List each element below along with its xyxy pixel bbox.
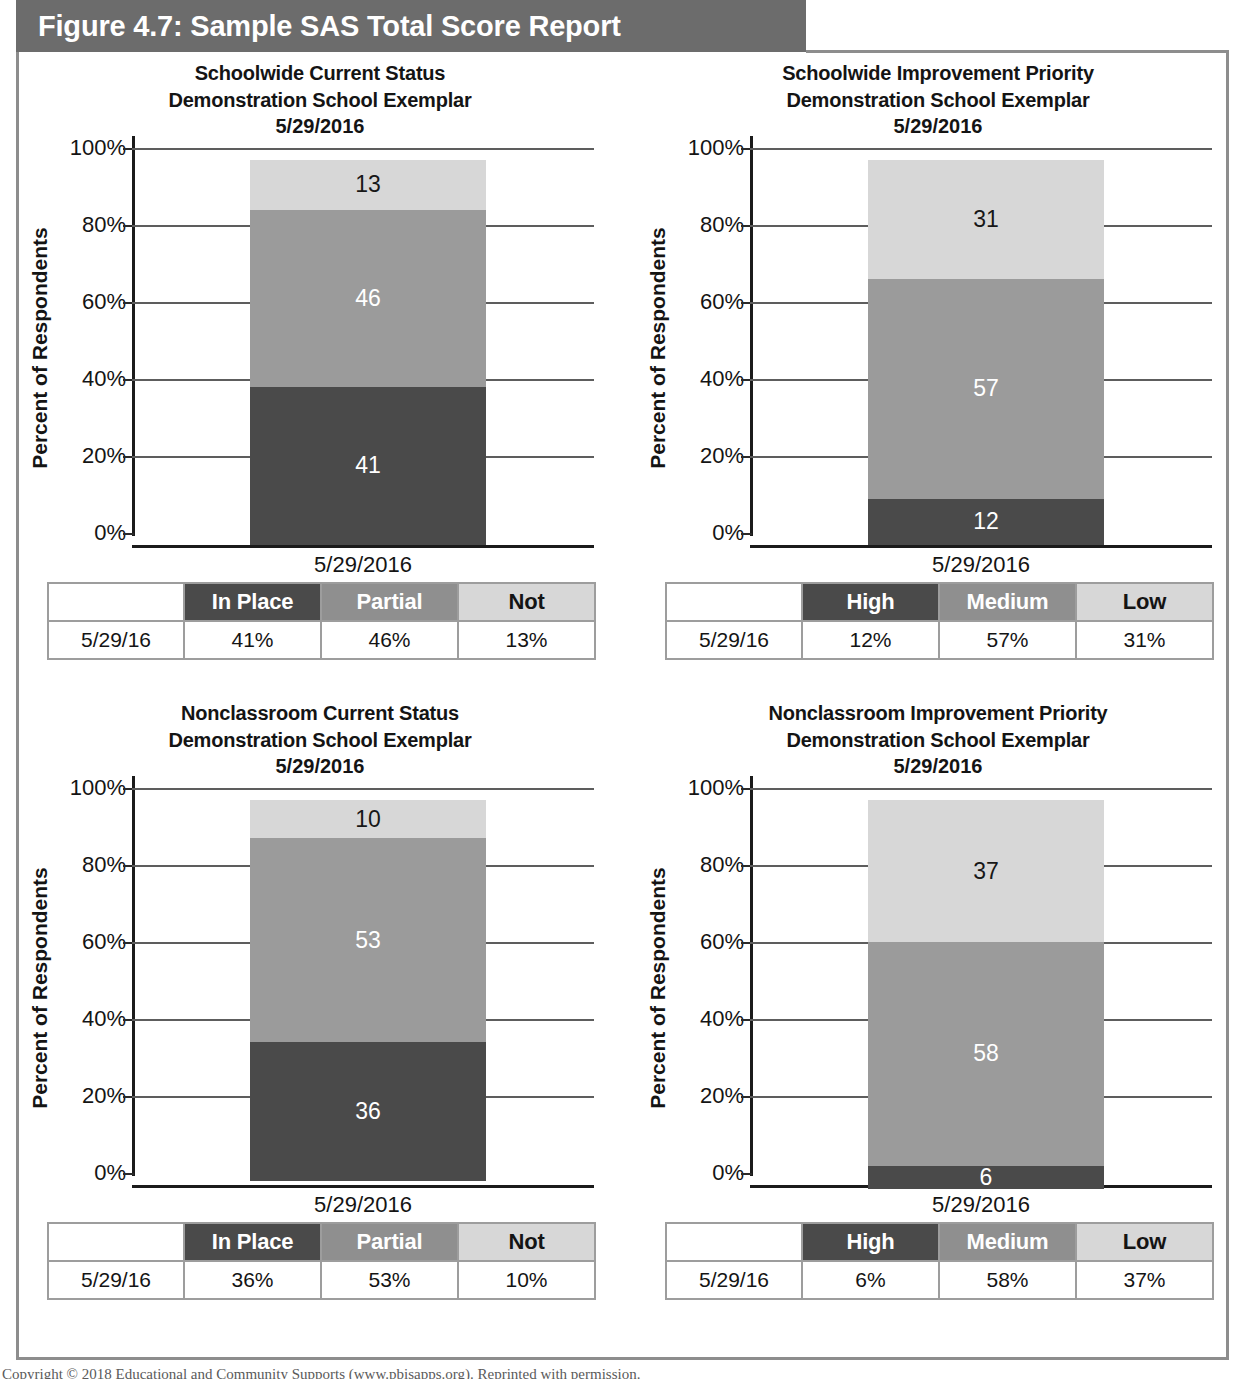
x-axis-line [750, 545, 1212, 548]
copyright-footer: Copyright © 2018 Educational and Communi… [2, 1366, 1102, 1379]
y-axis-line [750, 136, 753, 536]
y-tick-mark [123, 533, 134, 535]
bar-segment-high: 6 [868, 1166, 1104, 1189]
panel-schoolwide-current-status: Schoolwide Current StatusDemonstration S… [22, 60, 618, 700]
legend-header-row: HighMediumLow [666, 1223, 1213, 1261]
legend-header-partial: Partial [321, 583, 458, 621]
x-axis-line [132, 545, 594, 548]
panel-nonclassroom-improvement-priority: Nonclassroom Improvement PriorityDemonst… [640, 700, 1236, 1340]
y-tick-label: 80% [700, 852, 744, 878]
legend-row-label: 5/29/16 [48, 621, 184, 659]
legend-value-cell: 12% [802, 621, 939, 659]
plot-area: Percent of Respondents100%80%60%40%20%0%… [640, 788, 1218, 1208]
legend-table: In PlacePartialNot5/29/1641%46%13% [47, 582, 596, 660]
y-tick-label: 80% [700, 212, 744, 238]
chart-title-line: Demonstration School Exemplar [22, 727, 618, 754]
y-axis-ticks: 100%80%60%40%20%0% [670, 788, 746, 1188]
figure-page: Figure 4.7: Sample SAS Total Score Repor… [0, 0, 1236, 1379]
bar-segment-medium: 57 [868, 279, 1104, 498]
chart-title: Schoolwide Improvement PriorityDemonstra… [640, 60, 1236, 140]
axis-area: 315712 [750, 148, 1212, 548]
chart-title-line: Nonclassroom Improvement Priority [640, 700, 1236, 727]
legend-header-medium: Medium [939, 1223, 1076, 1261]
y-tick-label: 0% [712, 1160, 744, 1186]
bar-segment-label: 41 [355, 452, 381, 479]
legend-value-cell: 10% [458, 1261, 595, 1299]
y-tick-label: 80% [82, 852, 126, 878]
y-tick-label: 20% [700, 443, 744, 469]
x-category-label: 5/29/2016 [132, 552, 594, 578]
plot-area: Percent of Respondents100%80%60%40%20%0%… [22, 148, 600, 568]
x-category-label: 5/29/2016 [132, 1192, 594, 1218]
legend-value-cell: 13% [458, 621, 595, 659]
x-category-label: 5/29/2016 [750, 552, 1212, 578]
legend-value-cell: 6% [802, 1261, 939, 1299]
panel-schoolwide-improvement-priority: Schoolwide Improvement PriorityDemonstra… [640, 60, 1236, 700]
figure-title-banner: Figure 4.7: Sample SAS Total Score Repor… [16, 0, 806, 52]
bar-segment-not: 10 [250, 800, 486, 839]
chart-title-line: Demonstration School Exemplar [640, 727, 1236, 754]
y-axis-label-text: Percent of Respondents [28, 227, 52, 469]
axis-area: 37586 [750, 788, 1212, 1188]
y-tick-label: 60% [82, 929, 126, 955]
legend-corner-cell [48, 1223, 184, 1261]
legend-row-label: 5/29/16 [666, 621, 802, 659]
axis-area: 105336 [132, 788, 594, 1188]
bar-segment-not: 13 [250, 160, 486, 210]
y-tick-label: 20% [82, 1083, 126, 1109]
bar-segment-partial: 53 [250, 838, 486, 1042]
chart-title-line: Demonstration School Exemplar [22, 87, 618, 114]
chart-title-line: Demonstration School Exemplar [640, 87, 1236, 114]
y-tick-label: 40% [700, 366, 744, 392]
y-tick-label: 100% [688, 775, 744, 801]
legend-value-row: 5/29/1641%46%13% [48, 621, 595, 659]
y-tick-label: 60% [700, 929, 744, 955]
bar-segment-in-place: 36 [250, 1042, 486, 1181]
y-tick-label: 0% [94, 520, 126, 546]
legend-value-row: 5/29/1612%57%31% [666, 621, 1213, 659]
legend-row-label: 5/29/16 [666, 1261, 802, 1299]
y-tick-label: 20% [700, 1083, 744, 1109]
y-tick-label: 0% [712, 520, 744, 546]
plot-area: Percent of Respondents100%80%60%40%20%0%… [22, 788, 600, 1208]
y-tick-label: 40% [82, 366, 126, 392]
gridline [750, 788, 1212, 790]
bar-segment-label: 46 [355, 285, 381, 312]
legend-header-low: Low [1076, 1223, 1213, 1261]
y-tick-label: 100% [70, 775, 126, 801]
gridline [132, 788, 594, 790]
stacked-bar: 105336 [250, 800, 486, 1185]
legend-value-cell: 37% [1076, 1261, 1213, 1299]
y-tick-label: 80% [82, 212, 126, 238]
legend-header-not: Not [458, 583, 595, 621]
stacked-bar: 37586 [868, 800, 1104, 1185]
x-axis-line [132, 1185, 594, 1188]
bar-segment-high: 12 [868, 499, 1104, 545]
bar-segment-in-place: 41 [250, 387, 486, 545]
bar-segment-medium: 58 [868, 942, 1104, 1165]
stacked-bar: 134641 [250, 160, 486, 545]
legend-table: HighMediumLow5/29/1612%57%31% [665, 582, 1214, 660]
stacked-bar: 315712 [868, 160, 1104, 545]
chart-title: Nonclassroom Current StatusDemonstration… [22, 700, 618, 780]
figure-title: Figure 4.7: Sample SAS Total Score Repor… [16, 10, 621, 43]
bar-segment-partial: 46 [250, 210, 486, 387]
chart-title: Schoolwide Current StatusDemonstration S… [22, 60, 618, 140]
y-tick-mark [741, 1173, 752, 1175]
bar-segment-label: 12 [973, 508, 999, 535]
chart-title-line: Schoolwide Improvement Priority [640, 60, 1236, 87]
x-category-label: 5/29/2016 [750, 1192, 1212, 1218]
axis-area: 134641 [132, 148, 594, 548]
legend-table: HighMediumLow5/29/166%58%37% [665, 1222, 1214, 1300]
bar-segment-label: 10 [355, 806, 381, 833]
legend-value-cell: 41% [184, 621, 321, 659]
legend-value-cell: 46% [321, 621, 458, 659]
bar-segment-low: 31 [868, 160, 1104, 279]
legend-value-row: 5/29/166%58%37% [666, 1261, 1213, 1299]
legend-header-row: In PlacePartialNot [48, 583, 595, 621]
legend-corner-cell [666, 1223, 802, 1261]
gridline [750, 148, 1212, 150]
legend-header-medium: Medium [939, 583, 1076, 621]
legend-value-cell: 31% [1076, 621, 1213, 659]
y-tick-label: 100% [688, 135, 744, 161]
